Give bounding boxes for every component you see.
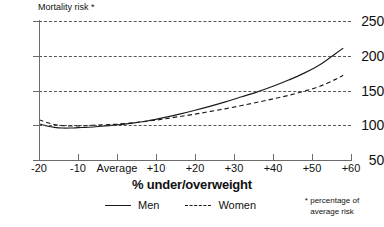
footnote-line-2: average risk [286, 207, 378, 218]
gridline-y-150 [39, 91, 351, 92]
footnote: * percentage of average risk [286, 196, 378, 218]
x-tick-+30 [234, 154, 235, 161]
chart-figure: Mortality risk * 50100150200250 -20-10Av… [0, 0, 384, 227]
x-tick--20 [39, 154, 40, 161]
footnote-line-1: * percentage of [286, 196, 378, 207]
gridline-y-250 [39, 21, 351, 22]
x-tick-Average [117, 154, 118, 161]
x-tick-label--10: -10 [70, 163, 86, 174]
y-tick-250 [33, 21, 40, 22]
plot-area [39, 21, 351, 160]
y-tick-label-150: 150 [352, 84, 384, 98]
legend-swatch-solid-icon [105, 205, 131, 206]
legend-swatch-dashed-icon [185, 205, 211, 206]
legend-label-men: Men [138, 200, 159, 211]
y-tick-label-250: 250 [352, 14, 384, 28]
series-line-women [39, 75, 343, 126]
y-axis-title: Mortality risk * [38, 2, 95, 12]
y-tick-150 [33, 91, 40, 92]
x-tick-label-+20: +20 [186, 163, 205, 174]
x-tick-+60 [351, 154, 352, 161]
y-tick-100 [33, 125, 40, 126]
legend-entry-men: Men [105, 200, 159, 211]
x-tick--10 [78, 154, 79, 161]
x-tick-label-+40: +40 [264, 163, 283, 174]
legend-label-women: Women [218, 200, 256, 211]
gridline-y-100 [39, 125, 351, 126]
y-tick-200 [33, 56, 40, 57]
x-tick-label-+30: +30 [225, 163, 244, 174]
x-tick-label-+50: +50 [303, 163, 322, 174]
x-axis-title: % under/overweight [0, 177, 384, 192]
series-line-men [39, 48, 343, 128]
x-tick-+20 [195, 154, 196, 161]
x-tick-label-+60: +60 [342, 163, 361, 174]
legend-entry-women: Women [185, 200, 256, 211]
x-tick-+50 [312, 154, 313, 161]
legend: Men Women [105, 200, 256, 211]
gridline-y-200 [39, 56, 351, 57]
x-tick-+10 [156, 154, 157, 161]
x-tick-label-+10: +10 [147, 163, 166, 174]
x-tick-+40 [273, 154, 274, 161]
y-tick-label-100: 100 [352, 118, 384, 132]
y-tick-label-200: 200 [352, 49, 384, 63]
x-tick-label--20: -20 [31, 163, 47, 174]
x-tick-label-Average: Average [97, 163, 138, 174]
